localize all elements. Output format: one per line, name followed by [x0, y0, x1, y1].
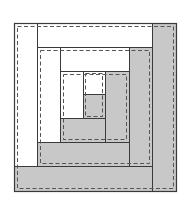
strip-round1-bottom	[15, 167, 153, 192]
strip-round3-right	[106, 72, 130, 143]
log-cabin-block	[0, 0, 186, 201]
strip-round2-top	[61, 48, 130, 72]
strip-round1-right	[153, 24, 177, 192]
fabric-strips	[15, 24, 177, 192]
strip-round3-bottom	[61, 119, 106, 143]
strip-round2-bottom	[38, 143, 130, 167]
strip-round1-top	[38, 24, 153, 48]
quilt-diagram	[0, 0, 186, 201]
